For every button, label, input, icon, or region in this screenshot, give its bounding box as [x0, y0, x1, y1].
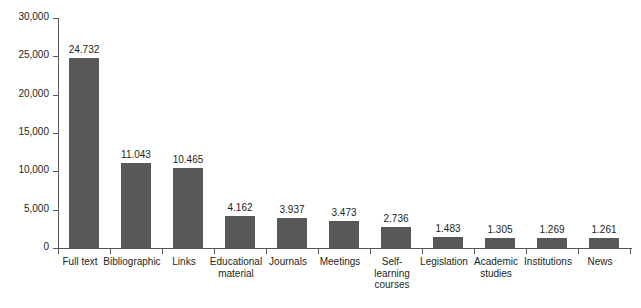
bar	[433, 237, 463, 248]
x-axis-tick-mark	[110, 249, 111, 254]
x-axis-tick-mark	[58, 249, 59, 254]
x-axis-category-label: Full text	[50, 256, 110, 268]
category-label-line: Academic	[466, 256, 526, 268]
bar-group: 4.162	[214, 18, 266, 248]
x-axis-tick-mark	[526, 249, 527, 254]
x-axis-tick-mark	[578, 249, 579, 254]
bar-group: 10.465	[162, 18, 214, 248]
x-axis-category-label: News	[570, 256, 630, 268]
x-axis-tick-mark	[266, 249, 267, 254]
bar-value-label: 11.043	[110, 149, 162, 160]
x-axis-tick-mark	[422, 249, 423, 254]
y-axis-tick-label: 30,000	[18, 11, 49, 22]
x-axis-category-label: Journals	[258, 256, 318, 268]
y-axis-tick-label: 15,000	[18, 126, 49, 137]
y-axis-tick-label: 20,000	[18, 88, 49, 99]
bar-value-label: 1.261	[578, 224, 630, 235]
category-label-line: courses	[362, 279, 422, 291]
x-axis-category-label: Institutions	[518, 256, 578, 268]
x-axis-category-label: Academicstudies	[466, 256, 526, 279]
bar-group: 1.305	[474, 18, 526, 248]
bar-value-label: 24.732	[58, 44, 110, 55]
bar-group: 1.261	[578, 18, 630, 248]
bar	[537, 238, 567, 248]
category-labels: Full textBibliographicLinksEducationalma…	[58, 256, 632, 306]
category-label-line: studies	[466, 268, 526, 280]
category-label-line: material	[206, 268, 266, 280]
bar	[173, 168, 203, 248]
bar	[225, 216, 255, 248]
bar	[381, 227, 411, 248]
bar-group: 3.937	[266, 18, 318, 248]
x-axis-tick-mark	[370, 249, 371, 254]
bar-group: 1.483	[422, 18, 474, 248]
category-label-line: Self-	[362, 256, 422, 268]
x-axis-tick-mark	[162, 249, 163, 254]
category-label-line: Institutions	[518, 256, 578, 268]
x-axis-category-label: Links	[154, 256, 214, 268]
category-label-line: Journals	[258, 256, 318, 268]
x-axis-category-label: Legislation	[414, 256, 474, 268]
bar-group: 24.732	[58, 18, 110, 248]
bar-value-label: 2.736	[370, 213, 422, 224]
bar-value-label: 3.473	[318, 207, 370, 218]
y-axis-tick-label: 10,000	[18, 164, 49, 175]
bar-group: 3.473	[318, 18, 370, 248]
category-label-line: Educational	[206, 256, 266, 268]
y-axis-tick-label: 5,000	[24, 203, 49, 214]
x-axis-line	[58, 248, 632, 249]
x-axis-category-label: Self-learningcourses	[362, 256, 422, 291]
bar-group: 11.043	[110, 18, 162, 248]
bar-value-label: 4.162	[214, 202, 266, 213]
category-label-line: Bibliographic	[102, 256, 162, 268]
bar	[69, 58, 99, 248]
bar-group: 2.736	[370, 18, 422, 248]
bar-value-label: 1.269	[526, 224, 578, 235]
x-axis-category-label: Bibliographic	[102, 256, 162, 268]
category-label-line: Legislation	[414, 256, 474, 268]
bar-value-label: 1.305	[474, 224, 526, 235]
x-axis-tick-mark	[214, 249, 215, 254]
bar-chart: 05,00010,00015,00020,00025,00030,000 24.…	[0, 0, 641, 308]
category-label-line: News	[570, 256, 630, 268]
y-axis-tick-label: 0	[43, 241, 49, 252]
bar	[485, 238, 515, 248]
bar	[277, 218, 307, 248]
x-axis-tick-mark	[630, 249, 631, 254]
x-axis-tick-mark	[474, 249, 475, 254]
x-axis-tick-mark	[318, 249, 319, 254]
bars-layer: 24.73211.04310.4654.1623.9373.4732.7361.…	[58, 18, 632, 248]
bar	[121, 163, 151, 248]
bar	[589, 238, 619, 248]
category-label-line: Full text	[50, 256, 110, 268]
bar-group: 1.269	[526, 18, 578, 248]
category-label-line: learning	[362, 268, 422, 280]
y-axis-tick-label: 25,000	[18, 49, 49, 60]
bar	[329, 221, 359, 248]
bar-value-label: 1.483	[422, 223, 474, 234]
category-label-line: Meetings	[310, 256, 370, 268]
x-axis-category-label: Meetings	[310, 256, 370, 268]
x-axis-category-label: Educationalmaterial	[206, 256, 266, 279]
category-label-line: Links	[154, 256, 214, 268]
bar-value-label: 3.937	[266, 204, 318, 215]
bar-value-label: 10.465	[162, 154, 214, 165]
